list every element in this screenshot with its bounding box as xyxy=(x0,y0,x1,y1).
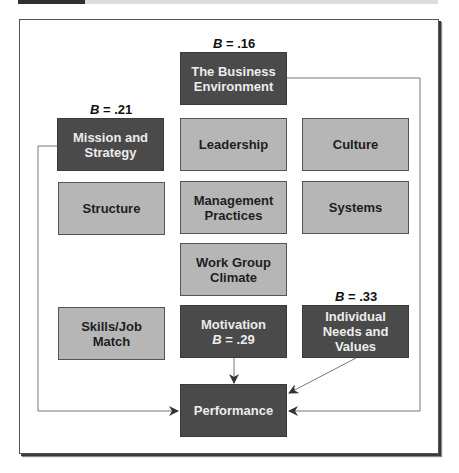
box-performance: Performance xyxy=(180,384,287,437)
box-skills-job-match: Skills/Job Match xyxy=(58,307,165,360)
box-individual-needs-values: Individual Needs and Values xyxy=(302,305,409,358)
beta-label-business: B = .16 xyxy=(213,36,255,51)
box-systems: Systems xyxy=(302,181,409,234)
beta-label-motivation: B = .29 xyxy=(212,332,254,347)
box-culture: Culture xyxy=(302,118,409,171)
box-structure: Structure xyxy=(58,182,165,235)
beta-label-mission: B = .21 xyxy=(90,102,132,117)
box-work-group-climate: Work Group Climate xyxy=(180,243,287,296)
box-motivation: Motivation B = .29 xyxy=(180,305,287,358)
arrow-individual-to-performance xyxy=(289,358,356,393)
box-mission-strategy: Mission and Strategy xyxy=(57,118,164,171)
box-business-environment: The Business Environment xyxy=(180,52,287,105)
box-leadership: Leadership xyxy=(180,118,287,171)
box-management-practices: Management Practices xyxy=(180,181,287,234)
beta-label-individual: B = .33 xyxy=(335,289,377,304)
